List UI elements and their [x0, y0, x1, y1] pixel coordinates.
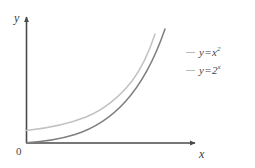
legend-equals-sign: =	[204, 46, 212, 58]
x-axis-label: x	[199, 148, 204, 160]
legend-dash-2-to-the-x	[186, 70, 195, 71]
legend-dash-x-squared	[186, 52, 195, 53]
legend-label-2-to-the-x: y=2x	[199, 65, 221, 76]
plot-area	[0, 0, 255, 168]
legend-label-x-squared: y=x2	[199, 47, 221, 58]
curve-x-squared	[27, 29, 166, 143]
legend-equals-sign: =	[204, 64, 212, 76]
legend-expression-exponent: 2	[217, 45, 221, 53]
figure-container: y x 0 y=x2 y=2x	[0, 0, 255, 168]
origin-label: 0	[16, 146, 22, 157]
legend-entry-x-squared: y=x2	[186, 47, 221, 58]
legend-expression-exponent: x	[218, 63, 221, 71]
legend: y=x2 y=2x	[186, 47, 221, 76]
legend-entry-2-to-the-x: y=2x	[186, 65, 221, 76]
curve-2-to-the-x	[27, 34, 156, 131]
y-axis-label: y	[14, 12, 19, 24]
